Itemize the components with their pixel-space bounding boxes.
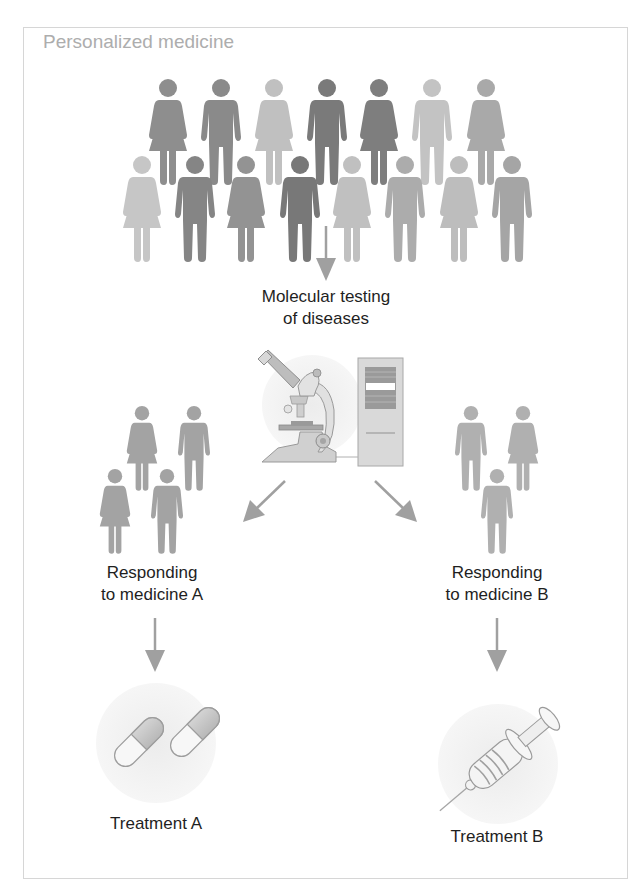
person-female-icon bbox=[333, 156, 371, 262]
person-female-icon bbox=[508, 406, 538, 491]
person-female-icon bbox=[127, 406, 157, 491]
arrow-down-right-icon bbox=[375, 481, 417, 522]
syringe-icon bbox=[428, 700, 567, 825]
group-a-label-line2: to medicine A bbox=[101, 584, 203, 606]
person-male-icon bbox=[385, 156, 425, 262]
person-female-icon bbox=[255, 79, 293, 185]
arrow-down-icon bbox=[316, 226, 336, 281]
microscope-and-computer-icon bbox=[258, 350, 403, 466]
group-b-label: Responding to medicine B bbox=[446, 562, 549, 606]
arrow-down-left-icon bbox=[243, 481, 285, 522]
person-female-icon bbox=[227, 156, 265, 262]
treatment-a-label: Treatment A bbox=[110, 813, 202, 835]
person-male-icon bbox=[280, 156, 320, 262]
person-male-icon bbox=[151, 469, 183, 554]
person-male-icon bbox=[455, 406, 487, 491]
person-male-icon bbox=[492, 156, 532, 262]
person-female-icon bbox=[123, 156, 161, 262]
treatment-b-label: Treatment B bbox=[451, 826, 544, 848]
cropped-caption bbox=[25, 880, 625, 885]
group-a-figures bbox=[100, 406, 210, 554]
population-bottom-row bbox=[123, 156, 532, 262]
capsule-pills-icon bbox=[96, 683, 224, 803]
group-b-label-line2: to medicine B bbox=[446, 584, 549, 606]
testing-label-line2: of diseases bbox=[262, 308, 391, 330]
group-a-label: Responding to medicine A bbox=[101, 562, 203, 606]
group-b-label-line1: Responding bbox=[446, 562, 549, 584]
person-male-icon bbox=[481, 469, 513, 554]
testing-label: Molecular testing of diseases bbox=[262, 286, 391, 330]
person-female-icon bbox=[360, 79, 398, 185]
arrow-down-icon bbox=[145, 618, 165, 672]
diagram-canvas bbox=[0, 0, 633, 885]
person-female-icon bbox=[100, 469, 130, 554]
person-male-icon bbox=[412, 79, 452, 185]
person-male-icon bbox=[175, 156, 215, 262]
group-a-label-line1: Responding bbox=[101, 562, 203, 584]
person-female-icon bbox=[440, 156, 478, 262]
testing-label-line1: Molecular testing bbox=[262, 286, 391, 308]
person-female-icon bbox=[149, 79, 187, 185]
group-b-figures bbox=[455, 406, 538, 554]
person-male-icon bbox=[201, 79, 241, 185]
arrow-down-icon bbox=[487, 618, 507, 672]
person-female-icon bbox=[467, 79, 505, 185]
person-male-icon bbox=[307, 79, 347, 185]
person-male-icon bbox=[178, 406, 210, 491]
